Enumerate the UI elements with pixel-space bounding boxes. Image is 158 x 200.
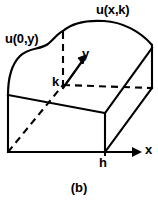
label-x-axis: x: [145, 143, 152, 156]
hidden-left-receding-edge: [8, 85, 63, 152]
figure-diagram: [0, 0, 158, 200]
right-receding-top-edge: [105, 48, 152, 113]
label-y-axis: y: [82, 47, 89, 60]
hidden-back-top-edge: [63, 85, 152, 88]
label-left-boundary: u(0,y): [5, 32, 38, 45]
label-h-tick: h: [99, 156, 107, 169]
figure-caption: (b): [0, 181, 158, 194]
label-k-tick: k: [52, 75, 59, 88]
figure-container: u(0,y) u(x,k) y k h x (b): [0, 0, 158, 200]
label-top-boundary: u(x,k): [96, 3, 129, 16]
x-axis-arrow: [132, 147, 142, 157]
x-axis-arrowhead: [132, 147, 142, 157]
y-axis-shaft: [63, 60, 83, 88]
front-top-edge: [8, 95, 105, 113]
top-boundary-curve: [63, 21, 152, 45]
